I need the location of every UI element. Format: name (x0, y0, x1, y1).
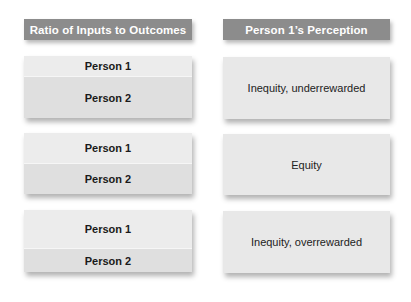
ratio-box-underrewarded: Person 1 Person 2 (24, 56, 192, 118)
person2-label: Person 2 (85, 92, 131, 104)
perception-column-header: Person 1’s Perception (223, 19, 390, 40)
perception-label: Inequity, underrewarded (248, 82, 366, 94)
person2-label: Person 2 (85, 255, 131, 267)
person2-cell: Person 2 (24, 249, 192, 272)
perception-column-header-label: Person 1’s Perception (245, 24, 367, 36)
person1-label: Person 1 (85, 223, 131, 235)
person2-label: Person 2 (85, 173, 131, 185)
ratio-column-header-label: Ratio of Inputs to Outcomes (30, 24, 187, 36)
perception-label: Equity (291, 159, 322, 171)
person2-cell: Person 2 (24, 77, 192, 118)
person1-cell: Person 1 (24, 133, 192, 164)
ratio-column-header: Ratio of Inputs to Outcomes (24, 19, 192, 40)
person2-cell: Person 2 (24, 164, 192, 194)
person1-label: Person 1 (85, 60, 131, 72)
person1-cell: Person 1 (24, 210, 192, 249)
perception-box-equity: Equity (223, 134, 390, 195)
person1-cell: Person 1 (24, 56, 192, 77)
ratio-box-overrewarded: Person 1 Person 2 (24, 210, 192, 272)
perception-label: Inequity, overrewarded (251, 236, 362, 248)
perception-box-underrewarded: Inequity, underrewarded (223, 57, 390, 119)
person1-label: Person 1 (85, 142, 131, 154)
perception-box-overrewarded: Inequity, overrewarded (223, 211, 390, 273)
ratio-box-equity: Person 1 Person 2 (24, 133, 192, 194)
